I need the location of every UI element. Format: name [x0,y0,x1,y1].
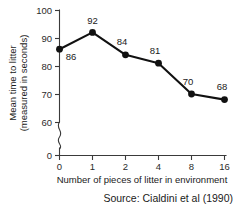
chart-figure: Mean time to litter (measured in seconds… [0,0,241,208]
y-axis-title-line2: (measured in seconds) [18,35,29,132]
source-note: Source: Cialdini et al (1990) [103,192,233,204]
y-axis-break-icon [58,122,61,149]
x-tick-label-8: 8 [189,161,194,172]
y-axis-title-line1: Mean time to litter [7,45,18,121]
data-point-16 [221,96,228,103]
data-label-4: 81 [150,45,161,56]
data-point-4 [155,60,162,67]
x-tick-label-1: 1 [90,161,95,172]
y-tick-label-70: 70 [41,89,52,100]
data-label-0: 86 [66,51,77,62]
line-chart-plot: Mean time to litter (measured in seconds… [0,0,241,208]
data-label-8: 70 [183,76,194,87]
data-point-0 [56,46,63,53]
series-line-mean-time [60,32,225,99]
x-tick-label-0: 0 [57,161,62,172]
data-label-16: 68 [217,81,228,92]
x-axis-title: Number of pieces of litter in environmen… [57,174,228,185]
x-tick-label-4: 4 [156,161,161,172]
data-point-8 [188,91,195,98]
data-point-1 [89,29,96,36]
data-label-2: 84 [117,36,128,47]
x-tick-label-2: 2 [123,161,128,172]
y-tick-label-0: 0 [47,150,52,161]
data-point-2 [122,51,129,58]
y-tick-label-100: 100 [36,5,52,16]
data-label-1: 92 [87,15,98,26]
y-tick-label-60: 60 [41,117,52,128]
y-tick-label-80: 80 [41,61,52,72]
x-tick-label-16: 16 [219,161,230,172]
y-tick-label-90: 90 [41,33,52,44]
